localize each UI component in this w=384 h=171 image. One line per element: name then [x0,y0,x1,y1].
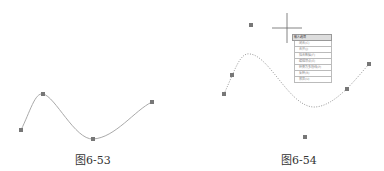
menu-item-undo[interactable]: 放弃(U) [294,77,332,83]
figure-caption-54: 图6-54 [281,151,317,167]
control-point[interactable] [91,137,95,141]
control-point[interactable] [303,135,307,139]
option-menu: 输入选项 闭合(C) 合并(J) 拟合数据(F) 编辑顶点(E) 转换为多段线(… [292,34,332,83]
control-point[interactable] [249,23,253,27]
control-point[interactable] [230,73,234,77]
control-point[interactable] [41,92,45,96]
spline-figure-53 [19,92,154,141]
control-point[interactable] [150,100,154,104]
menu-title: 输入选项 [292,34,332,41]
control-point[interactable] [222,92,226,96]
control-point[interactable] [345,87,349,91]
spline-curve [21,94,152,139]
control-point[interactable] [19,128,23,132]
figure-caption-53: 图6-53 [75,151,111,167]
control-point[interactable] [367,62,371,66]
drawing-canvas[interactable] [0,0,384,171]
